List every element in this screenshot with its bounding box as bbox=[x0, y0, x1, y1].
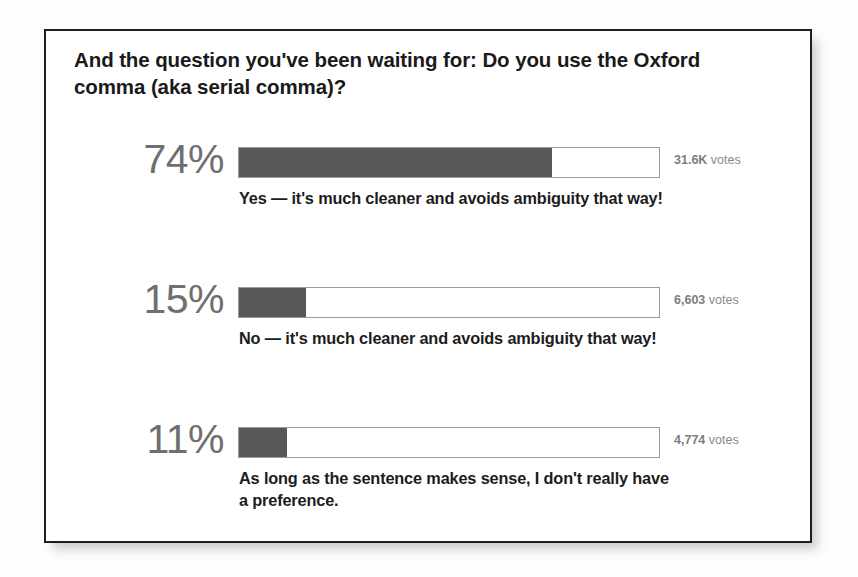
option-votes-word: votes bbox=[709, 433, 739, 447]
option-bar-track bbox=[238, 427, 660, 458]
option-votes-word: votes bbox=[711, 153, 741, 167]
option-votes-count: 6,603 bbox=[674, 293, 705, 307]
option-percent-label: 74% bbox=[64, 139, 224, 180]
poll-card: And the question you've been waiting for… bbox=[44, 29, 812, 543]
option-bar-track bbox=[238, 287, 660, 318]
option-answer-label: As long as the sentence makes sense, I d… bbox=[239, 467, 679, 511]
option-bar-fill bbox=[239, 428, 287, 457]
option-percent-label: 15% bbox=[64, 279, 224, 320]
option-bar-fill bbox=[239, 148, 552, 177]
poll-option-row[interactable]: 11% 4,774 votes As long as the sentence … bbox=[46, 419, 810, 549]
option-bar-track bbox=[238, 147, 660, 178]
option-percent-label: 11% bbox=[64, 419, 224, 460]
poll-option-row[interactable]: 74% 31.6K votes Yes — it's much cleaner … bbox=[46, 139, 810, 269]
option-votes: 4,774 votes bbox=[674, 433, 739, 447]
option-votes-count: 4,774 bbox=[674, 433, 705, 447]
option-answer-label: Yes — it's much cleaner and avoids ambig… bbox=[239, 187, 679, 209]
option-answer-label: No — it's much cleaner and avoids ambigu… bbox=[239, 327, 679, 349]
option-votes-word: votes bbox=[709, 293, 739, 307]
option-bar-fill bbox=[239, 288, 306, 317]
option-votes: 31.6K votes bbox=[674, 153, 741, 167]
poll-option-row[interactable]: 15% 6,603 votes No — it's much cleaner a… bbox=[46, 279, 810, 409]
option-votes-count: 31.6K bbox=[674, 153, 707, 167]
page-title: And the question you've been waiting for… bbox=[74, 46, 734, 101]
option-votes: 6,603 votes bbox=[674, 293, 739, 307]
